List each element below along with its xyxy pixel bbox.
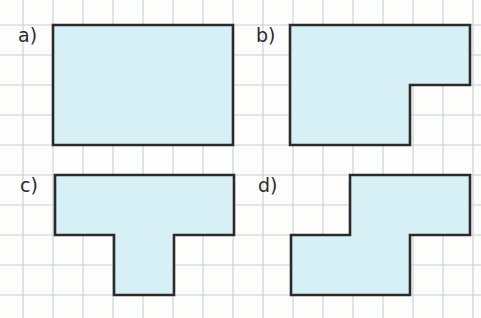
shape-a[interactable]	[53, 25, 233, 145]
shape-c[interactable]	[55, 175, 234, 295]
shape-label-c: c)	[20, 174, 38, 196]
shapes-layer	[53, 25, 470, 295]
worksheet-canvas: a)b)c)d)	[0, 0, 481, 318]
shapes-figure: a)b)c)d)	[0, 0, 481, 318]
shape-label-a: a)	[18, 24, 37, 46]
shape-label-b: b)	[256, 24, 275, 46]
shape-label-d: d)	[258, 174, 277, 196]
